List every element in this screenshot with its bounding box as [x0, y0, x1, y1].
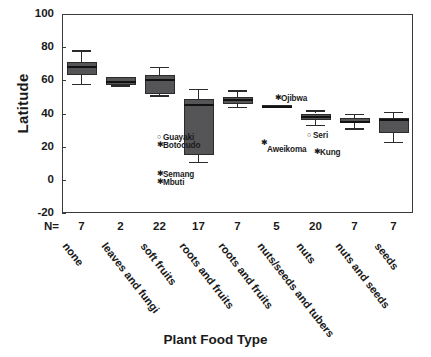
- median-line: [67, 66, 97, 68]
- n-row-label: N=: [44, 220, 59, 232]
- n-value: 7: [223, 220, 253, 232]
- y-tick-mark: [62, 14, 66, 15]
- whisker-cap-upper: [72, 50, 92, 51]
- whisker-cap-lower: [228, 107, 248, 108]
- whisker-lower: [81, 75, 82, 83]
- y-tick-mark: [62, 114, 66, 115]
- outlier-label: Botocudo: [163, 141, 200, 150]
- median-line: [262, 106, 292, 108]
- n-value: 17: [184, 220, 214, 232]
- whisker-cap-upper: [150, 67, 170, 68]
- x-axis-category-labels: noneleaves and fungisoft fruitsroots and…: [0, 238, 431, 338]
- y-tick-label: -20: [20, 206, 54, 218]
- n-value: 7: [340, 220, 370, 232]
- median-line: [184, 104, 214, 106]
- box-iqr: [145, 75, 175, 93]
- n-value: 5: [262, 220, 292, 232]
- n-value: 20: [301, 220, 331, 232]
- outlier-label: Aweikoma: [267, 145, 307, 154]
- median-line: [106, 81, 136, 83]
- whisker-cap-upper: [345, 114, 365, 115]
- y-tick-label: 20: [20, 140, 54, 152]
- chart-figure: Latitude 100806040200-20 ○Guayaki✱Botocu…: [0, 0, 431, 357]
- box-iqr: [67, 62, 97, 75]
- y-tick-mark: [62, 213, 66, 214]
- n-value: 7: [379, 220, 409, 232]
- y-tick-label: 40: [20, 107, 54, 119]
- whisker-cap-lower: [111, 85, 131, 86]
- y-tick-label: 100: [20, 7, 54, 19]
- whisker-cap-lower: [384, 142, 404, 143]
- outlier-circle-icon: ○: [307, 131, 311, 139]
- whisker-upper: [81, 50, 82, 62]
- whisker-cap-lower: [345, 128, 365, 129]
- x-category-label: nuts: [294, 240, 318, 266]
- median-line: [301, 116, 331, 118]
- whisker-cap-upper: [189, 89, 209, 90]
- median-line: [340, 121, 370, 123]
- x-axis-title: Plant Food Type: [0, 332, 431, 347]
- n-value: 22: [145, 220, 175, 232]
- x-category-label: none: [60, 240, 86, 268]
- n-value: 7: [67, 220, 97, 232]
- x-category-label: nuts/seeds and tubers: [255, 240, 336, 339]
- whisker-lower: [198, 155, 199, 162]
- outlier-label: Seri: [313, 131, 328, 140]
- y-tick-label: 80: [20, 40, 54, 52]
- outlier-label: Mbuti: [163, 178, 184, 187]
- x-category-label: seeds: [372, 240, 401, 272]
- y-tick-label: 60: [20, 73, 54, 85]
- y-tick-mark: [62, 80, 66, 81]
- y-tick-mark: [62, 47, 66, 48]
- whisker-cap-upper: [228, 90, 248, 91]
- whisker-cap-upper: [306, 110, 326, 111]
- median-line: [223, 99, 253, 101]
- outlier-label: Kung: [320, 148, 341, 157]
- whisker-cap-lower: [72, 84, 92, 85]
- median-line: [379, 119, 409, 121]
- whisker-lower: [393, 133, 394, 141]
- y-tick-label: 0: [20, 173, 54, 185]
- x-category-label: soft fruits: [138, 240, 179, 287]
- whisker-cap-upper: [384, 112, 404, 113]
- whisker-cap-lower: [306, 125, 326, 126]
- whisker-cap-lower: [150, 95, 170, 96]
- n-value: 2: [106, 220, 136, 232]
- outlier-label: Ojibwa: [281, 94, 307, 103]
- whisker-cap-lower: [189, 162, 209, 163]
- y-tick-mark: [62, 147, 66, 148]
- whisker-upper: [198, 89, 199, 99]
- median-line: [145, 79, 175, 81]
- y-tick-mark: [62, 180, 66, 181]
